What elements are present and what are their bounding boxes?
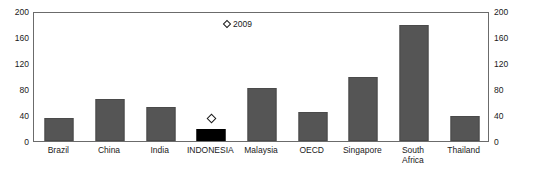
bar — [450, 116, 479, 141]
y-tick-label-left: 80 — [20, 86, 29, 95]
category-label: Malaysia — [236, 146, 287, 156]
legend: 2009 — [224, 20, 252, 29]
bar — [45, 118, 74, 141]
y-tick-label-left: 160 — [15, 34, 29, 43]
diamond-marker-icon — [223, 20, 231, 28]
x-axis-tick-label: Singapore — [337, 146, 388, 156]
chart-figure: 200 160 120 80 40 0 200 160 120 80 40 0 … — [0, 0, 542, 182]
y-tick-label-right: 40 — [494, 112, 503, 121]
bar — [146, 107, 175, 141]
plot-area — [33, 12, 489, 142]
bar-column — [287, 13, 338, 141]
x-axis-tick-label: Malaysia — [236, 146, 287, 156]
category-label: Brazil — [33, 146, 84, 156]
bar-column — [34, 13, 85, 141]
y-tick-label-left: 40 — [20, 112, 29, 121]
x-axis-tick-label: China — [84, 146, 135, 156]
category-label: Singapore — [337, 146, 388, 156]
bar-column — [338, 13, 389, 141]
y-axis-left: 200 160 120 80 40 0 — [0, 0, 29, 182]
y-tick-label-left: 200 — [15, 8, 29, 17]
bar-column — [389, 13, 440, 141]
bar-column — [237, 13, 288, 141]
y-tick-label-left: 120 — [15, 60, 29, 69]
y-tick-label-right: 160 — [494, 34, 508, 43]
bar — [247, 88, 276, 141]
x-axis-categories: BrazilChinaIndiaINDONESIAMalaysiaOECDSin… — [33, 146, 489, 176]
y-axis-right: 200 160 120 80 40 0 — [494, 0, 540, 182]
diamond-marker-icon — [206, 113, 216, 123]
bar — [399, 25, 428, 141]
bar — [95, 99, 124, 141]
x-axis-tick-label: Brazil — [33, 146, 84, 156]
category-label: South Africa — [388, 146, 439, 165]
y-tick-label-right: 0 — [494, 138, 499, 147]
caption-strip — [6, 176, 536, 182]
bars-container — [34, 13, 488, 141]
category-label: China — [84, 146, 135, 156]
x-axis-tick-label: Thailand — [438, 146, 489, 156]
y-tick-label-right: 80 — [494, 86, 503, 95]
category-label: Thailand — [438, 146, 489, 156]
bar — [197, 129, 226, 141]
x-axis-tick-label: India — [134, 146, 185, 156]
bar-column — [85, 13, 136, 141]
bar-column — [135, 13, 186, 141]
y-tick-label-left: 0 — [24, 138, 29, 147]
bar — [298, 112, 327, 141]
category-label: INDONESIA — [185, 146, 236, 156]
category-label: India — [134, 146, 185, 156]
category-label: OECD — [286, 146, 337, 156]
y-tick-label-right: 200 — [494, 8, 508, 17]
bar-column — [186, 13, 237, 141]
x-axis-tick-label: South Africa — [388, 146, 439, 165]
x-axis-tick-label: OECD — [286, 146, 337, 156]
bar — [349, 77, 378, 141]
x-axis-tick-label: INDONESIA — [185, 146, 236, 156]
legend-item-label: 2009 — [233, 20, 252, 29]
y-tick-label-right: 120 — [494, 60, 508, 69]
bar-column — [439, 13, 490, 141]
